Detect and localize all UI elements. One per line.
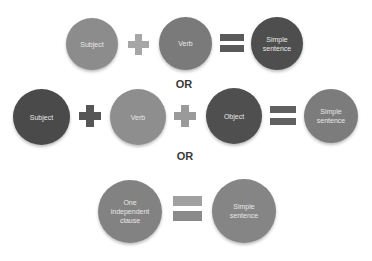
row2-subject-label: Subject — [26, 113, 57, 122]
row2-verb-label: Verb — [127, 113, 149, 122]
row2-object-label: Object — [220, 112, 248, 121]
row1-result-label: Simple sentence — [251, 35, 303, 53]
row2-result-circle: Simple sentence — [304, 89, 358, 143]
equals-icon — [220, 34, 244, 53]
row3-clause-circle: One independent clause — [98, 180, 162, 243]
plus-icon — [174, 105, 196, 127]
row3-result-circle: Simple sentence — [212, 179, 276, 243]
row3-result-label: Simple sentence — [220, 202, 268, 220]
row2-result-label: Simple sentence — [304, 107, 358, 125]
plus-icon — [128, 34, 149, 55]
or-separator-2: OR — [177, 150, 194, 162]
row1-subject-label: Subject — [76, 40, 107, 49]
row2-subject-circle: Subject — [13, 89, 70, 145]
row1-result-circle: Simple sentence — [251, 17, 303, 70]
plus-icon — [79, 105, 101, 127]
row1-subject-circle: Subject — [66, 18, 118, 70]
row1-verb-circle: Verb — [159, 17, 212, 70]
row3-clause-label: One independent clause — [104, 198, 156, 225]
or-separator-1: OR — [176, 78, 193, 90]
row1-verb-label: Verb — [174, 39, 196, 48]
equals-icon — [173, 196, 202, 222]
equals-icon — [270, 106, 296, 126]
row2-verb-circle: Verb — [110, 89, 166, 145]
row2-object-circle: Object — [206, 88, 262, 144]
